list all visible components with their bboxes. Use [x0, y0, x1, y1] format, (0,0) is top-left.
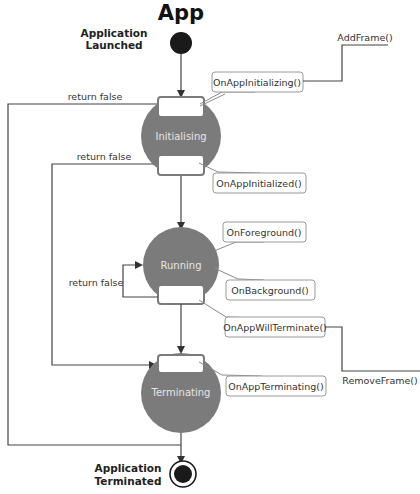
end-label-line1: Application — [95, 462, 162, 474]
callout-label-on-app-terminating: OnAppTerminating() — [228, 381, 323, 392]
end-node — [170, 461, 196, 487]
end-label-line2: Terminated — [95, 475, 162, 487]
start-label-line2: Launched — [85, 39, 142, 51]
callout-label-on-foreground: OnForeground() — [226, 227, 301, 238]
return-false-label-1: return false — [68, 91, 123, 102]
diagram-title: App — [158, 1, 204, 25]
callout-label-on-app-initialized: OnAppInitialized() — [216, 178, 301, 189]
callout-label-on-app-initializing: OnAppInitializing() — [213, 77, 301, 88]
state-label-running: Running — [161, 260, 202, 271]
annotation-remove-frame: RemoveFrame() — [342, 375, 418, 386]
state-label-terminating: Terminating — [151, 387, 211, 398]
callout-label-on-app-will-terminate: OnAppWillTerminate() — [223, 322, 327, 333]
add-frame-connector — [303, 45, 388, 81]
state-diagram: App Application Launched return false re… — [0, 0, 420, 494]
annotation-add-frame: AddFrame() — [337, 32, 392, 43]
state-label-initialising: Initialising — [155, 131, 206, 142]
start-label-line1: Application — [81, 27, 148, 39]
return-false-label-3: return false — [69, 277, 124, 288]
return-false-label-2: return false — [77, 151, 132, 162]
callout-label-on-background: OnBackground() — [231, 285, 309, 296]
remove-frame-connector — [325, 327, 420, 371]
start-node — [170, 32, 192, 54]
